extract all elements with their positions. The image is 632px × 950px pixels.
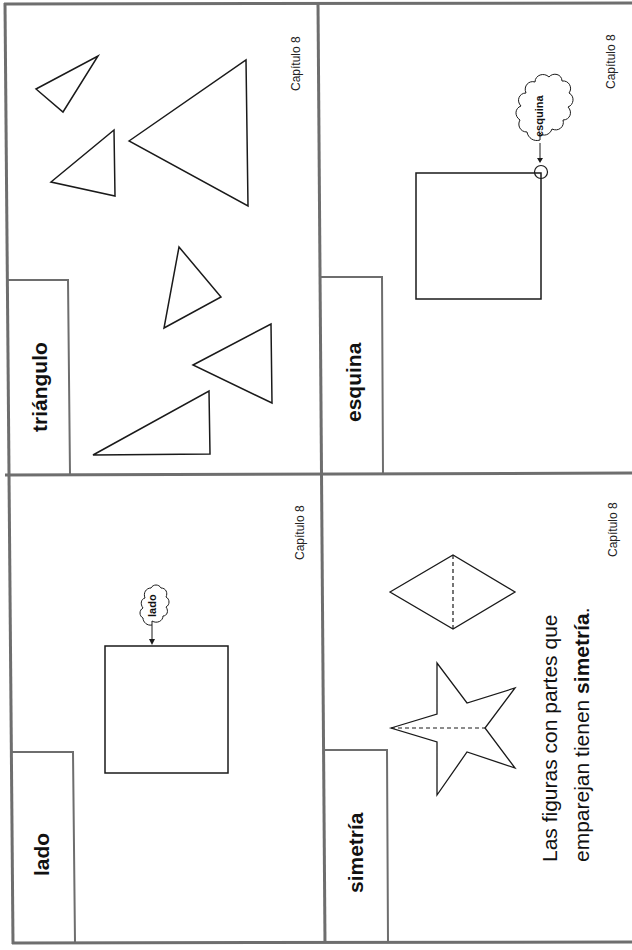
sentence-line-2: emparejan tienen simetría. bbox=[566, 607, 598, 862]
sentence-line-1: Las figuras con partes que bbox=[534, 607, 566, 862]
card-word-label: simetría bbox=[344, 812, 368, 893]
vocabulary-cards-sheet: triángulo Capítulo 8 esquina esquina Cap… bbox=[0, 0, 632, 950]
sentence-text: emparejan tienen bbox=[570, 694, 593, 862]
sentence-period: . bbox=[570, 607, 593, 613]
sentence-bold-term: simetría bbox=[570, 613, 593, 694]
chapter-label: Capítulo 8 bbox=[606, 502, 620, 557]
star-shape bbox=[391, 663, 515, 795]
definition-sentence: Las figuras con partes que emparejan tie… bbox=[534, 607, 598, 862]
